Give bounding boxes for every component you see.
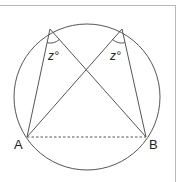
point-label-b: B [149, 137, 158, 152]
angle-label-left: z° [47, 49, 59, 63]
chord-left-apex-to-a [27, 29, 50, 137]
chord-left-apex-to-b [50, 29, 146, 137]
angle-arc-right [113, 40, 125, 44]
chord-right-apex-to-b [122, 29, 146, 137]
circle-theorem-diagram: z° z° A B [0, 0, 178, 182]
chord-right-apex-to-a [27, 29, 122, 137]
angle-label-right: z° [109, 49, 121, 63]
point-label-a: A [14, 137, 23, 152]
angle-arc-left [47, 40, 59, 44]
